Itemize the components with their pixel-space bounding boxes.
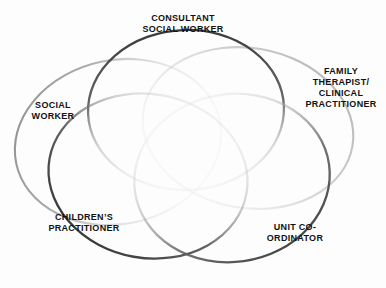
venn-label-consultant-social-worker: CONSULTANT SOCIAL WORKER (118, 13, 248, 35)
venn-ellipse-family-therapist (130, 31, 367, 225)
venn-label-childrens-practitioner: CHILDREN’S PRACTITIONER (24, 212, 144, 234)
venn-ellipses-group (0, 0, 386, 288)
venn-label-social-worker: SOCIAL WORKER (10, 100, 96, 122)
venn-label-family-therapist-clinical-practitioner: FAMILY THERAPIST/ CLINICAL PRACTITIONER (296, 66, 386, 110)
venn-ellipse-unit-coordinator (123, 81, 340, 275)
venn-ellipse-consultant-social-worker (85, 27, 286, 194)
venn-diagram: CONSULTANT SOCIAL WORKER FAMILY THERAPIS… (0, 0, 386, 288)
venn-label-unit-coordinator: UNIT CO- ORDINATOR (245, 222, 345, 244)
